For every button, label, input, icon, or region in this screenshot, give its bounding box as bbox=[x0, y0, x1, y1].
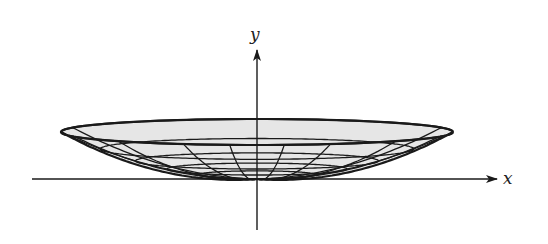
y-axis-label: y bbox=[249, 24, 260, 44]
paraboloid-diagram: x y bbox=[0, 0, 548, 244]
x-axis-label: x bbox=[503, 168, 513, 188]
